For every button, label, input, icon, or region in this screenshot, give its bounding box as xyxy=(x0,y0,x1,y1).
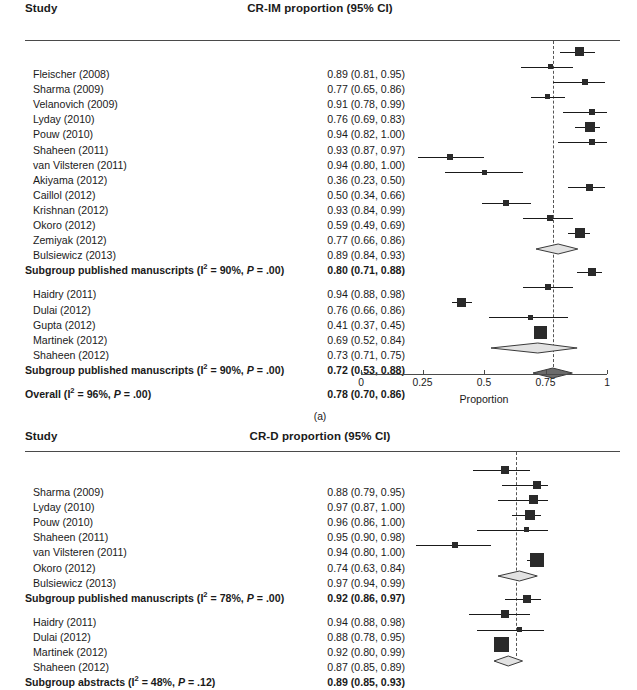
study-label: Pouw (2010) xyxy=(33,127,93,142)
effect-estimate-value: 0.36 (0.23, 0.50) xyxy=(230,173,405,188)
table-row: Pouw (2010)0.96 (0.86, 1.00) xyxy=(0,515,637,530)
study-label: Shaheen (2012) xyxy=(33,660,109,675)
table-row: Sharma (2009)0.88 (0.79, 0.95) xyxy=(0,485,637,500)
study-label: Krishnan (2012) xyxy=(33,203,108,218)
subgroup-summary-row: Subgroup published manuscripts (I2 = 90%… xyxy=(0,363,637,378)
forest-panel-a: Study CR-IM proportion (95% CI) Fleische… xyxy=(0,0,637,410)
study-label: Fleischer (2008) xyxy=(33,67,110,82)
effect-estimate-value: 0.89 (0.81, 0.95) xyxy=(230,67,405,82)
study-label: Sharma (2009) xyxy=(33,485,104,500)
effect-estimate-value: 0.72 (0.53, 0.88) xyxy=(230,363,405,378)
study-label: Dulai (2012) xyxy=(33,630,91,645)
study-label: van Vilsteren (2011) xyxy=(33,158,127,173)
subgroup-summary-row: Subgroup published manuscripts (I2 = 90%… xyxy=(0,263,637,278)
x-axis-tick-label: 0.5 xyxy=(477,377,491,388)
x-axis-tick-label: 0.25 xyxy=(412,377,432,388)
x-axis-tick xyxy=(607,370,608,374)
effect-estimate-value: 0.94 (0.82, 1.00) xyxy=(230,127,405,142)
forest-panel-b: Study CR-D proportion (95% CI) Sharma (2… xyxy=(0,428,637,655)
study-label: Bulsiewicz (2013) xyxy=(33,576,116,591)
x-axis-tick xyxy=(484,370,485,374)
panel-caption-a: (a) xyxy=(314,411,327,422)
x-axis-tick-label: 0 xyxy=(358,377,364,388)
effect-estimate-value: 0.69 (0.52, 0.84) xyxy=(230,333,405,348)
study-label: Caillol (2012) xyxy=(33,188,95,203)
study-label: Zemiyak (2012) xyxy=(33,233,107,248)
column-header-effect-a: CR-IM proportion (95% CI) xyxy=(235,2,405,14)
effect-estimate-value: 0.87 (0.85, 0.89) xyxy=(230,660,405,675)
column-header-effect-b: CR-D proportion (95% CI) xyxy=(235,430,405,442)
study-label: Lyday (2010) xyxy=(33,112,94,127)
table-row: Pouw (2010)0.94 (0.82, 1.00) xyxy=(0,127,637,142)
effect-estimate-value: 0.94 (0.88, 0.98) xyxy=(230,287,405,302)
effect-estimate-value: 0.59 (0.49, 0.69) xyxy=(230,218,405,233)
x-axis-tick xyxy=(423,370,424,374)
study-label: Haidry (2011) xyxy=(33,287,96,302)
effect-estimate-value: 0.74 (0.63, 0.84) xyxy=(230,561,405,576)
table-row: Okoro (2012)0.59 (0.49, 0.69) xyxy=(0,218,637,233)
table-row: Caillol (2012)0.50 (0.34, 0.66) xyxy=(0,188,637,203)
study-label: Lyday (2010) xyxy=(33,500,94,515)
effect-estimate-value: 0.77 (0.66, 0.86) xyxy=(230,233,405,248)
effect-estimate-value: 0.89 (0.84, 0.93) xyxy=(230,248,405,263)
table-row: Lyday (2010)0.76 (0.69, 0.83) xyxy=(0,112,637,127)
header-rule xyxy=(25,451,620,452)
x-axis-tick xyxy=(361,370,362,374)
study-label: Overall (I2 = 96%, P = .00) xyxy=(25,387,151,402)
table-row: Haidry (2011)0.94 (0.88, 0.98) xyxy=(0,615,637,630)
effect-estimate-value: 0.94 (0.80, 1.00) xyxy=(230,545,405,560)
x-axis-title: Proportion xyxy=(460,393,509,405)
table-row: Sharma (2009)0.77 (0.65, 0.86) xyxy=(0,82,637,97)
subgroup-summary-row: Subgroup published manuscripts (I2 = 78%… xyxy=(0,591,637,606)
study-label: Shaheen (2011) xyxy=(33,143,108,158)
x-axis-line xyxy=(361,374,607,375)
table-row: Dulai (2012)0.88 (0.78, 0.95) xyxy=(0,630,637,645)
table-row: Haidry (2011)0.94 (0.88, 0.98) xyxy=(0,287,637,302)
table-row: Krishnan (2012)0.93 (0.84, 0.99) xyxy=(0,203,637,218)
study-label: Sharma (2009) xyxy=(33,82,104,97)
table-row: Shaheen (2011)0.93 (0.87, 0.97) xyxy=(0,143,637,158)
effect-estimate-value: 0.80 (0.71, 0.88) xyxy=(230,263,405,278)
effect-estimate-value: 0.93 (0.87, 0.97) xyxy=(230,143,405,158)
column-header-study: Study xyxy=(25,2,57,14)
effect-estimate-value: 0.95 (0.90, 0.98) xyxy=(230,530,405,545)
effect-estimate-value: 0.93 (0.84, 0.99) xyxy=(230,203,405,218)
effect-estimate-value: 0.96 (0.86, 1.00) xyxy=(230,515,405,530)
effect-estimate-value: 0.97 (0.87, 1.00) xyxy=(230,500,405,515)
effect-estimate-value: 0.78 (0.70, 0.86) xyxy=(230,387,405,402)
study-label: Gupta (2012) xyxy=(33,318,95,333)
study-label: Martinek (2012) xyxy=(33,333,107,348)
x-axis-tick-label: 0.75 xyxy=(535,377,555,388)
study-label: van Vilsteren (2011) xyxy=(33,545,127,560)
study-label: Okoro (2012) xyxy=(33,561,95,576)
table-row: Dulai (2012)0.76 (0.66, 0.86) xyxy=(0,303,637,318)
subgroup-summary-row: Subgroup abstracts (I2 = 48%, P = .12)0.… xyxy=(0,675,637,690)
study-label: Shaheen (2011) xyxy=(33,530,108,545)
effect-estimate-value: 0.73 (0.71, 0.75) xyxy=(230,348,405,363)
table-row: Shaheen (2012)0.73 (0.71, 0.75) xyxy=(0,348,637,363)
table-row: Bulsiewicz (2013)0.97 (0.94, 0.99) xyxy=(0,576,637,591)
panel-a-rows: Fleischer (2008)0.89 (0.81, 0.95)Sharma … xyxy=(0,22,637,357)
x-axis-tick-label: 1 xyxy=(604,377,610,388)
study-label: Akiyama (2012) xyxy=(33,173,107,188)
panel-b-header: Study CR-D proportion (95% CI) xyxy=(0,428,637,450)
table-row: Lyday (2010)0.97 (0.87, 1.00) xyxy=(0,500,637,515)
effect-estimate-value: 0.76 (0.69, 0.83) xyxy=(230,112,405,127)
study-label: Dulai (2012) xyxy=(33,303,91,318)
effect-estimate-value: 0.94 (0.80, 1.00) xyxy=(230,158,405,173)
effect-estimate-value: 0.88 (0.79, 0.95) xyxy=(230,485,405,500)
effect-estimate-value: 0.92 (0.80, 0.99) xyxy=(230,645,405,660)
effect-estimate-value: 0.88 (0.78, 0.95) xyxy=(230,630,405,645)
effect-estimate-value: 0.89 (0.85, 0.93) xyxy=(230,675,405,690)
table-row: Shaheen (2011)0.95 (0.90, 0.98) xyxy=(0,530,637,545)
table-row: Fleischer (2008)0.89 (0.81, 0.95) xyxy=(0,67,637,82)
study-label: Velanovich (2009) xyxy=(33,97,118,112)
table-row: Velanovich (2009)0.91 (0.78, 0.99) xyxy=(0,97,637,112)
overall-row: Overall (I2 = 96%, P = .00)0.78 (0.70, 0… xyxy=(0,387,637,402)
table-row: Bulsiewicz (2013)0.89 (0.84, 0.93) xyxy=(0,248,637,263)
table-row: van Vilsteren (2011)0.94 (0.80, 1.00) xyxy=(0,158,637,173)
effect-estimate-value: 0.41 (0.37, 0.45) xyxy=(230,318,405,333)
header-rule xyxy=(25,40,620,41)
effect-estimate-value: 0.77 (0.65, 0.86) xyxy=(230,82,405,97)
effect-estimate-value: 0.91 (0.78, 0.99) xyxy=(230,97,405,112)
